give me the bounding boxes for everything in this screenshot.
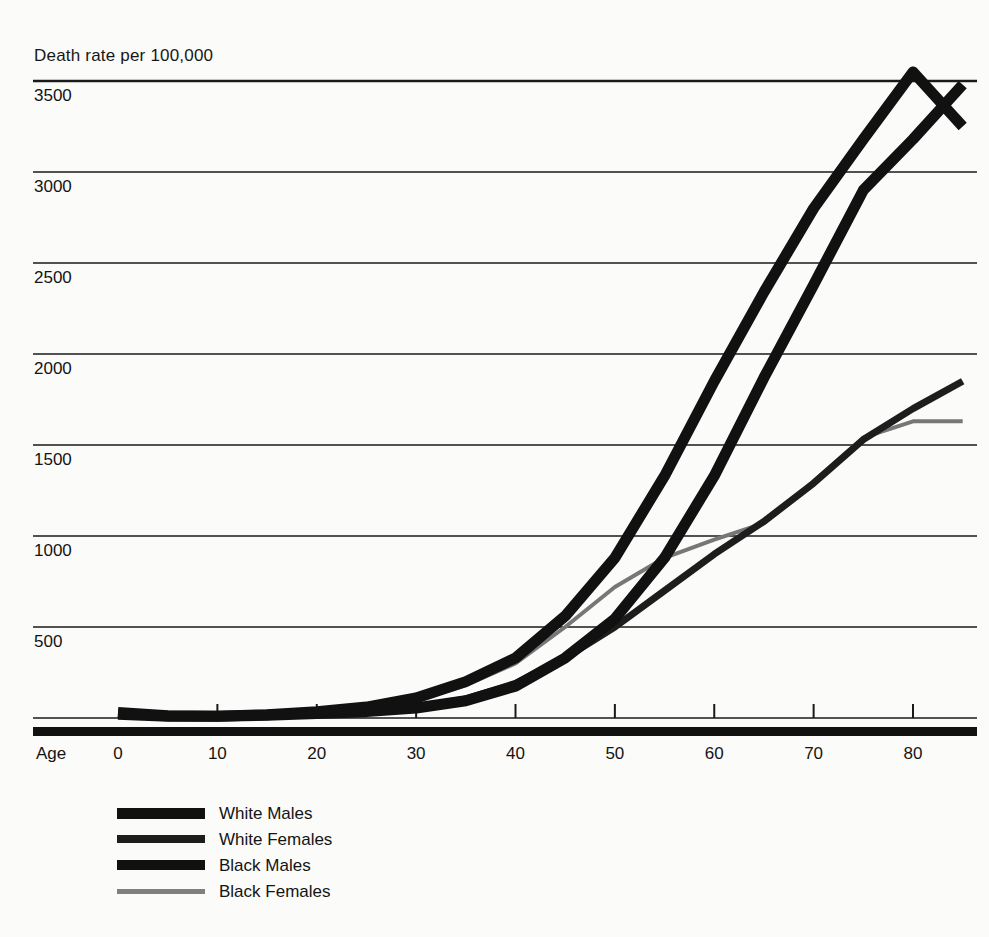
- legend-label: Black Males: [219, 857, 311, 874]
- y-tick-label: 1500: [34, 451, 72, 468]
- legend-label: White Males: [219, 805, 313, 822]
- legend-item[interactable]: White Males: [117, 800, 332, 826]
- legend-swatch: [117, 808, 205, 819]
- legend-item[interactable]: Black Males: [117, 852, 332, 878]
- y-tick-label: 2000: [34, 360, 72, 377]
- plot-area: [0, 0, 989, 937]
- x-tick-label: 10: [208, 745, 227, 762]
- series-group: [118, 72, 963, 717]
- y-tick-label: 500: [34, 633, 62, 650]
- legend-item[interactable]: White Females: [117, 826, 332, 852]
- x-tick-label: 70: [804, 745, 823, 762]
- y-tick-label: 3500: [34, 87, 72, 104]
- x-tick-label: 30: [407, 745, 426, 762]
- legend-label: Black Females: [219, 883, 330, 900]
- legend-swatch: [117, 889, 205, 894]
- x-tick-label: 50: [605, 745, 624, 762]
- chart-legend: White MalesWhite FemalesBlack MalesBlack…: [117, 800, 332, 904]
- x-tick-label: 40: [506, 745, 525, 762]
- chart-page: Death rate per 100,000 35003000250020001…: [0, 0, 989, 937]
- legend-swatch: [117, 860, 205, 870]
- gridlines: [33, 81, 977, 627]
- legend-swatch: [117, 835, 205, 843]
- y-tick-label: 2500: [34, 269, 72, 286]
- legend-label: White Females: [219, 831, 332, 848]
- series-line: [118, 72, 963, 716]
- y-tick-label: 1000: [34, 542, 72, 559]
- x-axis-bar: [33, 727, 977, 736]
- x-tick-label: 0: [113, 745, 122, 762]
- x-axis-title: Age: [36, 745, 66, 762]
- x-tick-label: 80: [904, 745, 923, 762]
- x-tick-label: 20: [307, 745, 326, 762]
- y-tick-label: 3000: [34, 178, 72, 195]
- chart-svg: [0, 0, 989, 937]
- x-tick-label: 60: [705, 745, 724, 762]
- legend-item[interactable]: Black Females: [117, 878, 332, 904]
